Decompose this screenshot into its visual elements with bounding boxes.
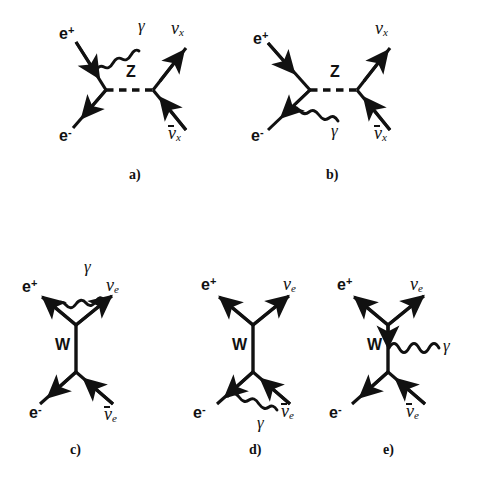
electron-label-c: e- xyxy=(29,404,42,421)
electron-label-e: e- xyxy=(329,404,342,421)
neutrino-flavor-d: e xyxy=(291,282,296,294)
z-symbol-a: Z xyxy=(126,63,136,80)
caption-b-text: b) xyxy=(326,167,338,182)
antineutrino-flavor-e: e xyxy=(414,409,419,421)
positron-label-e: e+ xyxy=(337,276,352,293)
positron-symbol-e: e xyxy=(337,276,346,293)
neutrino-symbol-c: ν xyxy=(106,275,114,295)
neutrino-label-e: νe xyxy=(410,275,423,294)
electron-symbol-d: e xyxy=(193,404,202,421)
electron-symbol-c: e xyxy=(29,404,38,421)
positron-symbol-a: e xyxy=(59,25,68,42)
electron-label-a: e- xyxy=(59,127,72,144)
overbar-e xyxy=(406,403,412,405)
photon-symbol-d: γ xyxy=(257,413,264,432)
electron-arrow-d xyxy=(232,372,253,391)
electron-charge-a: - xyxy=(68,126,72,138)
electron-charge-d: - xyxy=(202,403,206,415)
neutrino-label-b: νx xyxy=(375,19,388,38)
photon-wave-d xyxy=(228,393,277,410)
z-boson-label-a: Z xyxy=(126,64,136,80)
diagram-e xyxy=(352,296,439,404)
w-symbol-d: W xyxy=(232,336,247,353)
neutrino-label-d: νe xyxy=(283,275,296,294)
overbar-d xyxy=(281,403,287,405)
antineutrino-flavor-c: e xyxy=(112,412,117,424)
electron-arrow-c xyxy=(55,372,76,391)
positron-symbol-c: e xyxy=(22,278,31,295)
positron-charge-c: + xyxy=(31,277,37,289)
antineutrino-label-d: νe xyxy=(281,402,294,421)
positron-arrow-e xyxy=(362,303,388,325)
positron-charge-a: + xyxy=(68,24,74,36)
antineutrino-flavor-d: e xyxy=(289,409,294,421)
photon-symbol-e: γ xyxy=(443,336,450,355)
antineutrino-bar-wrap-c: ν xyxy=(104,405,112,423)
neutrino-symbol-e: ν xyxy=(410,274,418,294)
caption-d-text: d) xyxy=(249,442,261,457)
electron-charge-c: - xyxy=(38,403,42,415)
antineutrino-arrow-c xyxy=(91,385,113,404)
antineutrino-bar-wrap-e: ν xyxy=(406,402,414,420)
w-boson-label-e: W xyxy=(367,337,382,353)
z-symbol-b: Z xyxy=(330,63,340,80)
photon-label-e: γ xyxy=(443,337,450,354)
antineutrino-bar-wrap-a: ν xyxy=(168,124,176,142)
neutrino-symbol-a: ν xyxy=(171,18,179,38)
electron-arrow-a xyxy=(88,90,106,111)
neutrino-flavor-e: e xyxy=(418,282,423,294)
photon-symbol-b: γ xyxy=(331,121,338,140)
antineutrino-label-e: νe xyxy=(406,402,419,421)
neutrino-symbol-d: ν xyxy=(283,274,291,294)
photon-label-c: γ xyxy=(84,258,91,275)
electron-label-d: e- xyxy=(193,404,206,421)
overbar-a xyxy=(168,125,174,127)
electron-charge-e: - xyxy=(338,403,342,415)
positron-label-a: e+ xyxy=(59,25,74,42)
neutrino-label-c: νe xyxy=(106,276,119,295)
positron-arrow-a xyxy=(76,42,94,70)
electron-symbol-b: e xyxy=(251,127,260,144)
antineutrino-label-a: νx xyxy=(168,124,181,143)
caption-b: b) xyxy=(326,168,338,182)
positron-charge-d: + xyxy=(210,275,216,287)
positron-label-c: e+ xyxy=(22,278,37,295)
caption-d: d) xyxy=(249,443,261,457)
photon-symbol-a: γ xyxy=(138,16,145,35)
neutrino-symbol-b: ν xyxy=(375,18,383,38)
positron-charge-b: + xyxy=(262,29,268,41)
neutrino-arrow-b xyxy=(364,58,382,81)
neutrino-label-a: νx xyxy=(171,19,184,38)
caption-e-text: e) xyxy=(383,442,394,457)
antineutrino-label-b: νx xyxy=(374,124,387,143)
neutrino-flavor-b: x xyxy=(383,26,388,38)
positron-label-d: e+ xyxy=(201,276,216,293)
electron-symbol-a: e xyxy=(59,127,68,144)
neutrino-flavor-c: e xyxy=(114,283,119,295)
feynman-figure: e+ γ νx Z e- νx a) e+ νx Z e- γ νx b) e+… xyxy=(0,0,479,484)
photon-label-a: γ xyxy=(138,17,145,34)
neutrino-arrow-d xyxy=(253,302,281,325)
caption-e: e) xyxy=(383,443,394,457)
caption-c: c) xyxy=(70,443,81,457)
positron-symbol-d: e xyxy=(201,276,210,293)
electron-label-b: e- xyxy=(251,127,264,144)
caption-a: a) xyxy=(129,168,141,182)
photon-wave-b xyxy=(289,107,338,121)
positron-arrow-d xyxy=(227,303,253,325)
photon-wave-e xyxy=(389,344,439,353)
positron-symbol-b: e xyxy=(253,30,262,47)
antineutrino-flavor-b: x xyxy=(382,131,387,143)
diagram-c xyxy=(40,296,113,404)
w-symbol-c: W xyxy=(55,336,70,353)
neutrino-arrow-e xyxy=(388,302,416,325)
positron-charge-e: + xyxy=(346,275,352,287)
antineutrino-bar-wrap-d: ν xyxy=(281,402,289,420)
diagram-a xyxy=(73,42,186,130)
w-symbol-e: W xyxy=(367,336,382,353)
photon-symbol-c: γ xyxy=(84,257,91,276)
overbar-c xyxy=(104,406,110,408)
electron-charge-b: - xyxy=(260,126,264,138)
photon-label-d: γ xyxy=(257,414,264,431)
neutrino-arrow-a xyxy=(160,58,178,81)
